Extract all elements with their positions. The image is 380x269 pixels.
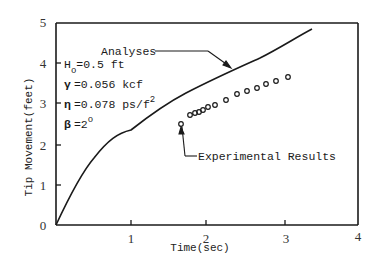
experimental-points xyxy=(179,75,291,127)
y-axis-title: Tip Movement(feet) xyxy=(23,78,35,197)
x-tick-labels: 1 2 3 4 xyxy=(128,229,362,246)
y-tick-label: 0 xyxy=(40,218,47,233)
chart: 1 2 3 4 0 1 2 3 4 5 Time(sec) Tip Moveme… xyxy=(0,0,380,269)
y-tick-labels: 0 1 2 3 4 5 xyxy=(40,15,47,233)
parameters-block: Ho=0.5 ft γ=0.056 kcf η=0.078 ps/f2 β=2o xyxy=(64,58,155,131)
analyses-leader xyxy=(155,51,231,68)
experimental-label: Experimental Results xyxy=(198,150,336,163)
y-tick-label: 2 xyxy=(40,138,47,153)
x-tick-label: 3 xyxy=(283,231,290,246)
param-beta: β=2o xyxy=(64,115,93,131)
y-tick-label: 5 xyxy=(40,15,47,30)
x-tick-label: 1 xyxy=(128,231,135,246)
experimental-leader xyxy=(179,127,197,156)
x-axis-title: Time(sec) xyxy=(170,242,229,254)
y-tick-label: 3 xyxy=(40,96,47,111)
y-tick-label: 1 xyxy=(40,178,47,193)
param-eta: η=0.078 ps/f2 xyxy=(64,95,155,111)
analyses-label: Analyses xyxy=(101,45,156,58)
x-tick-label: 4 xyxy=(355,229,362,244)
y-tick-label: 4 xyxy=(40,56,47,71)
param-gamma: γ=0.056 kcf xyxy=(64,78,143,91)
param-h0: Ho=0.5 ft xyxy=(64,58,125,76)
